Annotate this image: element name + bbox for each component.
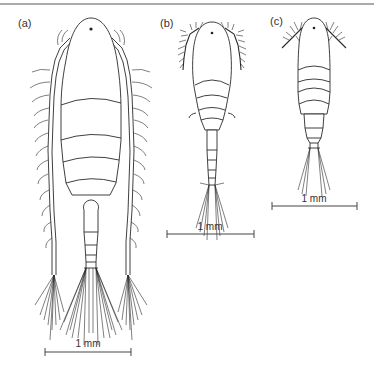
eye-spot-a (89, 27, 92, 30)
panel-label-a: (a) (18, 17, 31, 29)
scale-label-b: 1 mm (198, 221, 223, 232)
copepod-b (178, 22, 246, 240)
carapace-a (61, 18, 121, 195)
caudal-setae-c (298, 148, 330, 196)
eye-spot-c (313, 27, 316, 30)
scale-bar-b: 1 mm (167, 221, 254, 238)
scale-label-c: 1 mm (302, 193, 327, 204)
copepod-a (30, 18, 152, 345)
urosome-a (83, 200, 98, 262)
panel-label-c: (c) (270, 15, 283, 27)
copepod-figure: (a) (b) (c) (0, 0, 374, 374)
urosome-b (207, 130, 217, 185)
scale-label-a: 1 mm (76, 338, 101, 349)
panel-label-b: (b) (160, 17, 173, 29)
scale-bar-a: 1 mm (45, 338, 131, 356)
eye-spot-b (211, 32, 214, 35)
carapace-b (193, 22, 232, 130)
urosome-c (304, 114, 324, 143)
copepod-c (282, 18, 346, 196)
caudal-setae-a (60, 268, 122, 345)
scale-bar-c: 1 mm (272, 193, 357, 210)
